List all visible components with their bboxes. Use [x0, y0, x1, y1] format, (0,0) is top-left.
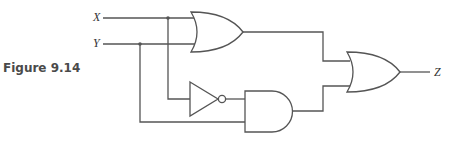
or-gate-1: [191, 12, 243, 52]
wire-or1-to-or2: [243, 32, 350, 61]
logic-circuit-diagram: Figure 9.14 X Y Z: [0, 0, 453, 141]
wire-x-to-not: [168, 18, 190, 99]
junction-y: [138, 42, 142, 46]
and-gate: [245, 91, 292, 132]
circuit-svg: [0, 0, 453, 141]
wire-and-to-or2: [293, 86, 350, 111]
or-gate-2: [347, 52, 400, 92]
not-bubble: [218, 95, 225, 102]
junction-x: [166, 16, 170, 20]
not-gate: [190, 82, 218, 116]
